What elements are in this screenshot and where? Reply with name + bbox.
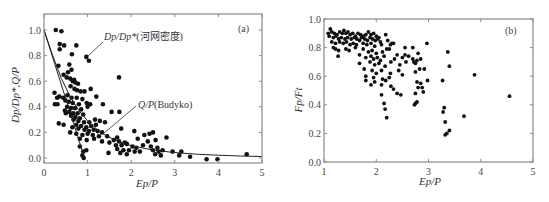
- annotation-river-density: Dp/Dp*(河网密度): [103, 30, 183, 43]
- data-point: [88, 87, 93, 92]
- panel-b: 12345 0.00.20.40.60.81.0 (b) Ep/P Fp/Ft: [292, 14, 536, 188]
- data-point: [413, 103, 417, 107]
- data-point: [119, 126, 124, 131]
- data-point: [204, 157, 209, 162]
- data-point: [334, 41, 338, 45]
- data-point: [448, 129, 452, 133]
- panel-b-y-axis-title: Fp/Ft: [292, 87, 304, 114]
- data-point: [354, 46, 358, 50]
- data-point: [337, 49, 341, 53]
- x-tick-label: 5: [531, 166, 536, 177]
- data-point: [358, 61, 362, 65]
- data-point: [382, 102, 386, 106]
- data-point: [59, 29, 64, 34]
- panel-a: 012345 0.00.20.40.60.81.0 (a) Dp/Dp*(河网密…: [9, 14, 265, 189]
- data-point: [85, 131, 90, 136]
- data-point: [389, 84, 393, 88]
- data-point: [339, 36, 343, 40]
- budyko-curve: [44, 30, 262, 157]
- data-point: [442, 106, 446, 110]
- y-tick-label: 0.6: [29, 76, 42, 87]
- data-point: [76, 82, 81, 87]
- data-point: [346, 36, 350, 40]
- data-point: [387, 76, 391, 80]
- x-tick-label: 1: [85, 167, 90, 178]
- annotation-budyko-main: Q/P: [138, 99, 154, 110]
- data-point: [57, 47, 62, 52]
- data-point: [383, 107, 387, 111]
- data-point: [82, 128, 87, 133]
- data-point: [381, 50, 385, 54]
- annotation-leader-river-density: [88, 42, 103, 56]
- data-point: [443, 120, 447, 124]
- x-tick-label: 4: [478, 166, 483, 177]
- data-point: [364, 74, 368, 78]
- panel-a-label: (a): [238, 23, 249, 35]
- data-point: [170, 149, 175, 154]
- y-tick-label: 0.8: [29, 50, 42, 61]
- data-point: [420, 86, 424, 90]
- data-point: [380, 93, 384, 97]
- y-tick-label: 0.6: [309, 71, 322, 82]
- data-point: [84, 138, 89, 143]
- data-point: [135, 137, 140, 142]
- data-point: [369, 83, 373, 87]
- data-point: [55, 102, 60, 107]
- data-point: [64, 111, 69, 116]
- data-point: [411, 46, 415, 50]
- data-point: [508, 94, 512, 98]
- data-point: [132, 149, 137, 154]
- data-point: [364, 33, 368, 37]
- data-point: [462, 114, 466, 118]
- x-tick-label: 4: [216, 167, 221, 178]
- data-point: [151, 130, 156, 135]
- data-point: [358, 53, 362, 57]
- data-point: [365, 43, 369, 47]
- data-point: [101, 102, 106, 107]
- data-point: [109, 110, 114, 115]
- data-point: [392, 41, 396, 45]
- y-tick-label: 1.0: [309, 14, 322, 25]
- data-point: [383, 64, 387, 68]
- annotation-budyko: Q/P(Budyko): [138, 99, 192, 111]
- data-point: [407, 54, 411, 58]
- data-point: [68, 84, 73, 89]
- data-point: [367, 50, 371, 54]
- y-tick-label: 0.0: [29, 153, 42, 164]
- data-point: [421, 90, 425, 94]
- x-tick-label: 2: [129, 167, 134, 178]
- data-point: [362, 67, 366, 71]
- data-point: [142, 133, 147, 138]
- data-point: [164, 135, 169, 140]
- data-point: [372, 57, 376, 61]
- data-point: [416, 51, 420, 55]
- data-point: [414, 70, 418, 74]
- data-point: [425, 41, 429, 45]
- annotation-river-density-main: Dp/Dp*: [103, 31, 136, 42]
- panel-a-scatter-points: [52, 28, 249, 162]
- data-point: [118, 151, 123, 156]
- data-point: [373, 63, 377, 67]
- data-point: [384, 79, 388, 83]
- data-point: [127, 148, 132, 153]
- data-point: [334, 34, 338, 38]
- data-point: [397, 69, 401, 73]
- data-point: [426, 79, 430, 83]
- data-point: [387, 47, 391, 51]
- data-point: [415, 100, 419, 104]
- data-point: [389, 60, 393, 64]
- data-point: [80, 133, 85, 138]
- data-point: [443, 133, 447, 137]
- data-point: [338, 40, 342, 44]
- panel-b-label: (b): [505, 25, 517, 37]
- data-point: [441, 110, 445, 114]
- data-point: [380, 83, 384, 87]
- data-point: [361, 47, 365, 51]
- y-tick-label: 0.2: [309, 128, 322, 139]
- data-point: [327, 34, 331, 38]
- panel-b-frame: [324, 19, 533, 162]
- data-point: [414, 92, 418, 96]
- data-point: [153, 152, 158, 157]
- data-point: [364, 56, 368, 60]
- data-point: [76, 126, 81, 131]
